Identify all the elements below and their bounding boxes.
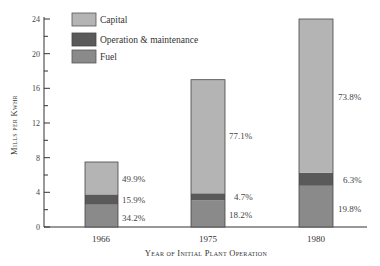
bar-1980-fuel	[299, 186, 333, 227]
legend-swatch-fuel	[72, 50, 96, 63]
legend-label-om: Operation & maintenance	[100, 35, 198, 45]
bar-1966-fuel	[85, 205, 118, 227]
pct-1980-om: 6.3%	[343, 175, 362, 185]
pct-1980-fuel: 19.8%	[338, 204, 362, 214]
legend: Capital Operation & maintenance Fuel	[72, 13, 198, 63]
y-tick-16: 16	[32, 84, 40, 93]
y-axis-title: Mills per Kwhr	[9, 95, 19, 155]
bar-1975: 77.1% 4.7% 18.2%	[191, 80, 253, 227]
y-tick-20: 20	[32, 50, 40, 59]
pct-1975-capital: 77.1%	[229, 131, 253, 141]
legend-swatch-om	[72, 33, 96, 46]
pct-1975-om: 4.7%	[234, 192, 253, 202]
bar-1975-om	[191, 193, 225, 200]
y-tick-0: 0	[36, 223, 40, 232]
pct-1966-capital: 49.9%	[122, 174, 146, 184]
stacked-bar-chart: 0 4 8 12 16 20 24 Mills per Kwhr 1966 19…	[0, 0, 380, 266]
x-tick-1966: 1966	[92, 234, 111, 244]
bar-1975-capital	[191, 80, 225, 194]
bar-1966-om	[85, 194, 118, 204]
pct-1980-capital: 73.8%	[338, 92, 362, 102]
y-tick-12: 12	[32, 119, 40, 128]
y-tick-4: 4	[36, 188, 40, 197]
pct-1966-fuel: 34.2%	[122, 213, 146, 223]
y-tick-24: 24	[32, 15, 40, 24]
pct-1975-fuel: 18.2%	[229, 210, 253, 220]
x-axis-title: Year of Initial Plant Operation	[145, 248, 268, 258]
bar-1966-capital	[85, 162, 118, 194]
bar-1980-capital	[299, 19, 333, 173]
bar-1980: 73.8% 6.3% 19.8%	[299, 19, 362, 227]
pct-1966-om: 15.9%	[122, 195, 146, 205]
y-tick-8: 8	[36, 154, 40, 163]
bar-1975-fuel	[191, 200, 225, 227]
bar-1980-om	[299, 173, 333, 186]
legend-label-fuel: Fuel	[100, 52, 117, 62]
y-axis: 0 4 8 12 16 20 24 Mills per Kwhr	[9, 15, 50, 232]
legend-label-capital: Capital	[100, 15, 128, 25]
legend-swatch-capital	[72, 13, 96, 26]
x-tick-1975: 1975	[199, 234, 218, 244]
bar-1966: 49.9% 15.9% 34.2%	[85, 162, 146, 227]
x-axis: 1966 1975 1980 Year of Initial Plant Ope…	[44, 227, 367, 258]
x-tick-1980: 1980	[307, 234, 326, 244]
